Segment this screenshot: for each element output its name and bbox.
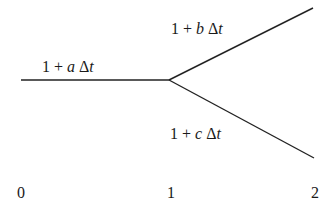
edge-label-b: 1 + b Δt <box>171 21 223 37</box>
edge-label-b-var: b <box>196 20 204 37</box>
edge-label-c-prefix: 1 + <box>170 125 195 142</box>
branching-diagram: 1 + a Δt 1 + b Δt 1 + c Δt 0 1 2 <box>0 0 325 204</box>
edge-label-b-delta: Δ <box>204 20 218 37</box>
edge-label-b-prefix: 1 + <box>171 20 196 37</box>
edge-label-a-prefix: 1 + <box>42 58 67 75</box>
edge-label-c-t: t <box>216 125 220 142</box>
tree-lines <box>0 0 325 204</box>
edge-label-c-delta: Δ <box>202 125 216 142</box>
axis-tick-2: 2 <box>311 185 319 201</box>
edge-label-a-delta: Δ <box>75 58 89 75</box>
edge-label-a-t: t <box>89 58 93 75</box>
edge-label-c: 1 + c Δt <box>170 126 221 142</box>
edge-b <box>169 8 313 80</box>
edge-c <box>169 80 314 158</box>
edge-label-a-var: a <box>67 58 75 75</box>
edge-label-b-t: t <box>218 20 222 37</box>
axis-tick-1: 1 <box>167 185 175 201</box>
axis-tick-0: 0 <box>17 185 25 201</box>
edge-label-a: 1 + a Δt <box>42 59 94 75</box>
